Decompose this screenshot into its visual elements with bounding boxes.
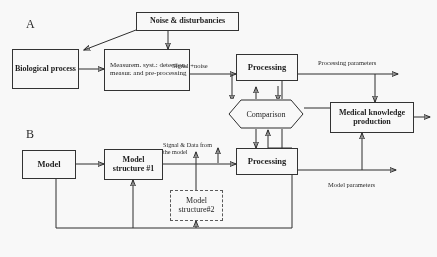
node-measurement-system[interactable]: Measurem. syst.: detection, measur. and … (104, 49, 190, 91)
node-noise-disturbancies-label: Noise & disturbancies (148, 17, 227, 26)
section-letter-a: A (26, 17, 35, 32)
node-medical-knowledge-production-label: Medical knowledge production (331, 109, 413, 127)
node-noise-disturbancies[interactable]: Noise & disturbancies (136, 12, 239, 31)
edge-label-model-parameters: Model parameters (328, 181, 375, 188)
node-model-structure-2[interactable]: Model structure#2 (170, 190, 223, 221)
node-processing-top[interactable]: Processing (236, 54, 298, 81)
node-medical-knowledge-production[interactable]: Medical knowledge production (330, 102, 414, 133)
edge-label-signal-and-data-from-model: Signal & Data from the model (163, 141, 212, 155)
node-processing-bottom[interactable]: Processing (236, 148, 298, 175)
node-comparison[interactable]: Comparison (228, 99, 304, 129)
figure-canvas: A B Noise & disturbancies Biological pro… (0, 0, 437, 257)
edge-noise-to-biological (84, 30, 136, 50)
edge-label-signal-plus-noise: Signal +noise (172, 62, 208, 69)
node-model-structure-2-label: Model structure#2 (171, 197, 222, 215)
node-biological-process-label: Biological process (13, 65, 78, 74)
node-processing-bottom-label: Processing (246, 157, 289, 167)
edge-label-processing-parameters: Processing parameters (318, 59, 376, 66)
node-model-label: Model (35, 160, 62, 170)
node-model-structure-1-label: Model structure #1 (105, 156, 162, 174)
node-processing-top-label: Processing (246, 63, 289, 73)
node-model-structure-1[interactable]: Model structure #1 (104, 149, 163, 180)
section-letter-b: B (26, 127, 34, 142)
node-comparison-label: Comparison (246, 110, 285, 119)
node-model[interactable]: Model (22, 150, 76, 179)
node-biological-process[interactable]: Biological process (12, 49, 79, 89)
